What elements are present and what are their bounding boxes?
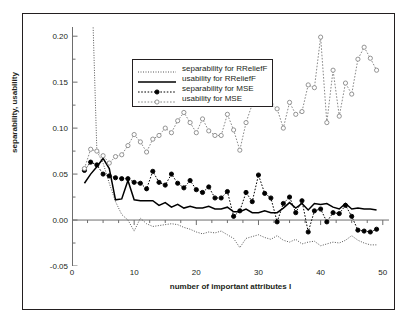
x-axis-tick-label: 50: [378, 268, 387, 277]
data-point-marker: [113, 155, 117, 159]
y-axis-tick-label: 0.15: [52, 78, 68, 87]
data-point-marker: [188, 121, 192, 125]
data-point-marker: [107, 161, 111, 165]
data-point-marker: [275, 220, 279, 224]
data-point-marker: [225, 112, 229, 116]
data-point-marker: [169, 131, 173, 135]
data-point-marker: [362, 45, 366, 49]
data-point-marker: [169, 172, 173, 176]
data-point-marker: [151, 137, 155, 141]
data-point-marker: [263, 191, 267, 195]
data-point-marker: [200, 117, 204, 121]
data-point-marker: [232, 214, 236, 218]
data-point-marker: [374, 227, 378, 231]
data-point-marker: [89, 147, 93, 151]
data-point-marker: [269, 196, 273, 200]
data-point-marker: [200, 190, 204, 194]
data-point-marker: [101, 154, 105, 158]
legend-item: separability for RReliefF: [137, 63, 267, 73]
data-point-marker: [350, 92, 354, 96]
data-point-marker: [312, 86, 316, 90]
data-point-marker: [325, 121, 329, 125]
x-axis-tick-label: 30: [254, 268, 263, 277]
data-point-marker: [107, 174, 111, 178]
data-point-marker: [337, 114, 341, 118]
data-point-marker: [325, 220, 329, 224]
data-point-marker: [319, 207, 323, 211]
data-point-marker: [281, 201, 285, 205]
data-point-marker: [281, 126, 285, 130]
data-point-marker: [89, 160, 93, 164]
data-point-marker: [213, 196, 217, 200]
y-axis-tick-label: 0.20: [52, 32, 68, 41]
data-point-marker: [356, 57, 360, 61]
data-point-marker: [182, 110, 186, 114]
data-point-marker: [194, 188, 198, 192]
data-point-marker: [95, 149, 99, 153]
legend-label: separability for RReliefF: [177, 64, 267, 73]
data-point-marker: [362, 229, 366, 233]
data-point-marker: [306, 230, 310, 234]
data-point-marker: [275, 107, 279, 111]
data-point-marker: [176, 181, 180, 185]
data-point-marker: [238, 148, 242, 152]
x-axis-tick-label: 0: [70, 268, 74, 277]
data-point-marker: [343, 81, 347, 85]
data-point-marker: [250, 200, 254, 204]
data-point-marker: [120, 153, 124, 157]
y-axis-title: separability, usability: [10, 33, 19, 193]
data-point-marker: [287, 195, 291, 199]
data-point-marker: [176, 119, 180, 123]
x-axis-tick-labels: 01020304050: [72, 268, 389, 282]
data-point-marker: [219, 196, 223, 200]
legend-item: separability for MSE: [137, 83, 267, 93]
data-point-marker: [138, 140, 142, 144]
data-point-marker: [232, 128, 236, 132]
data-point-marker: [294, 112, 298, 116]
chart-figure: 0.200.150.100.050.00-0.05 01020304050 se…: [0, 0, 418, 328]
legend-label: usability for MSE: [177, 94, 242, 103]
legend-item: usability for RReliefF: [137, 73, 267, 83]
chart-legend: separability for RReliefFusability for R…: [132, 59, 273, 107]
data-point-marker: [132, 180, 136, 184]
data-point-marker: [331, 68, 335, 72]
data-point-marker: [144, 187, 148, 191]
data-point-marker: [163, 183, 167, 187]
data-point-marker: [126, 177, 130, 181]
data-point-marker: [306, 83, 310, 87]
data-point-marker: [207, 129, 211, 133]
data-point-marker: [350, 214, 354, 218]
data-point-marker: [300, 199, 304, 203]
data-point-marker: [138, 181, 142, 185]
data-point-marker: [368, 230, 372, 234]
data-point-marker: [207, 185, 211, 189]
y-axis-tick-label: 0.00: [52, 216, 68, 225]
data-point-marker: [194, 131, 198, 135]
data-point-marker: [163, 126, 167, 130]
data-point-marker: [312, 209, 316, 213]
data-point-marker: [238, 209, 242, 213]
data-point-marker: [82, 166, 86, 170]
data-point-marker: [132, 132, 136, 136]
legend-key-icon: [137, 63, 177, 73]
legend-label: separability for MSE: [177, 84, 254, 93]
legend-key-icon: [137, 93, 177, 103]
x-axis-tick-label: 20: [192, 268, 201, 277]
data-point-marker: [95, 163, 99, 167]
data-point-marker: [294, 211, 298, 215]
data-point-marker: [219, 133, 223, 137]
legend-label: usability for RReliefF: [177, 74, 256, 83]
data-point-marker: [331, 211, 335, 215]
y-axis-tick-label: 0.10: [52, 124, 68, 133]
y-axis-tick-label: -0.05: [50, 262, 68, 271]
data-point-marker: [157, 133, 161, 137]
data-point-marker: [244, 121, 248, 125]
data-point-marker: [225, 189, 229, 193]
data-point-marker: [120, 177, 124, 181]
legend-key-icon: [137, 73, 177, 83]
data-point-marker: [244, 190, 248, 194]
data-point-marker: [343, 203, 347, 207]
data-point-marker: [188, 178, 192, 182]
data-point-marker: [113, 176, 117, 180]
data-point-marker: [374, 68, 378, 72]
